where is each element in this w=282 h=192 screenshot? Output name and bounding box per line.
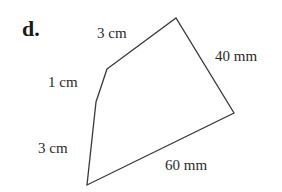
side-label-top: 3 cm: [97, 25, 127, 41]
polygon-diagram: d. 3 cm 40 mm 1 cm 3 cm 60 mm: [0, 0, 282, 192]
side-label-left-upper: 1 cm: [48, 74, 78, 90]
pentagon-shape: [87, 18, 234, 185]
side-label-right: 40 mm: [215, 48, 257, 64]
side-label-left-lower: 3 cm: [38, 140, 68, 156]
side-label-bottom: 60 mm: [165, 157, 207, 173]
part-label: d.: [22, 16, 40, 41]
